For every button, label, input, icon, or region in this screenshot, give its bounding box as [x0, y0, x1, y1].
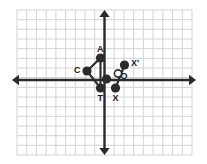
label-c: C: [74, 66, 81, 75]
coordinate-grid-figure: ACTXX'O: [0, 0, 207, 164]
geometry-canvas: [0, 0, 207, 164]
y-axis-arrow-down-icon: [99, 148, 109, 155]
point-x: [111, 83, 120, 92]
label-a: A: [97, 45, 104, 54]
y-axis-arrow-up-icon: [99, 10, 109, 17]
x-axis-arrow-left-icon: [12, 75, 19, 85]
point-a: [96, 53, 105, 62]
point-x-prime: [120, 60, 129, 69]
label-t: T: [98, 94, 104, 103]
label-x-prime: X': [131, 59, 139, 68]
point-t: [96, 83, 105, 92]
label-o: O: [121, 72, 128, 81]
point-m: [102, 74, 111, 83]
label-x: X: [113, 94, 119, 103]
point-c: [82, 66, 91, 75]
